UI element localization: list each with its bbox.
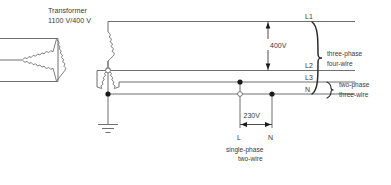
dimension-400v: 400V xyxy=(264,22,290,71)
label-three-wire: three-wire xyxy=(339,91,369,98)
brace-two-phase-three-wire xyxy=(327,82,334,98)
label-four-wire: four-wire xyxy=(327,60,353,67)
delta-winding-icon xyxy=(23,39,66,81)
dim-400v-label: 400V xyxy=(270,42,287,49)
terminal-label-N: N xyxy=(268,134,273,141)
bus-label-N: N xyxy=(305,86,310,93)
junction-dot-L3 xyxy=(237,79,242,84)
dim-230v-label: 230V xyxy=(244,112,261,119)
transformer-title: Transformer 1100 V/400 V xyxy=(48,6,91,25)
dim-400v-arrow-bottom xyxy=(266,64,271,70)
dim-230v-arrow-right xyxy=(265,122,271,127)
transformer-name-label: Transformer xyxy=(48,6,87,15)
label-two-phase: two-phase xyxy=(339,81,370,89)
power-distribution-diagram: Transformer 1100 V/400 V xyxy=(0,0,391,185)
bus-label-L2: L2 xyxy=(305,62,313,69)
label-three-phase: three-phase xyxy=(327,50,363,58)
junction-dot-N xyxy=(269,91,274,96)
single-phase-caption-line1: single-phase xyxy=(226,146,264,154)
delta-coil-lower xyxy=(23,60,57,81)
terminal-label-L: L xyxy=(237,134,241,141)
primary-delta-box xyxy=(0,39,58,82)
single-phase-caption-line2: two-wire xyxy=(238,155,263,162)
system-brackets: three-phase four-wire two-phase three-wi… xyxy=(312,22,370,98)
bus-line-labels: L1 L2 L3 N xyxy=(305,13,313,93)
single-phase-terminals: L N single-phase two-wire xyxy=(226,134,273,162)
bus-label-L3: L3 xyxy=(305,74,313,81)
junction-dot-neutral-transformer xyxy=(105,91,110,96)
bus-label-L1: L1 xyxy=(305,13,313,20)
crossing-marker-neutral-over-L2 xyxy=(106,68,111,73)
transformer-ratio-label: 1100 V/400 V xyxy=(48,16,91,25)
dimension-230v: 230V xyxy=(240,82,272,128)
delta-coil-upper xyxy=(23,39,57,60)
brace-three-phase-four-wire xyxy=(312,22,322,94)
crossing-marker-L3-over-N xyxy=(238,92,243,97)
dim-400v-arrow-top xyxy=(266,23,271,29)
wye-coil-vertical xyxy=(108,32,114,61)
dim-230v-arrow-left xyxy=(241,122,247,127)
